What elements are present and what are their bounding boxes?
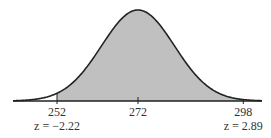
tick-label: 298 <box>234 105 252 119</box>
shaded-area <box>57 10 243 101</box>
z-score-label: z = −2.22 <box>34 119 80 133</box>
z-score-label: z = 2.89 <box>224 119 263 133</box>
normal-curve-chart: 252z = −2.22272298z = 2.89 <box>0 0 271 138</box>
tick-label: 272 <box>129 105 147 119</box>
tick-label: 252 <box>48 105 66 119</box>
